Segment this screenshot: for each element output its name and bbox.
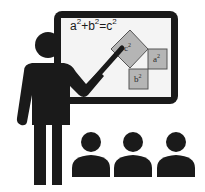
square-c-exp: 2 [128, 42, 131, 48]
pythagorean-formula: a2+b2=c2 [70, 19, 117, 33]
audience-member-2 [114, 132, 152, 177]
audience [72, 132, 195, 177]
square-label-a: a2 [153, 54, 160, 64]
teacher-illustration: a2+b2=c2 c2 a2 b2 [0, 0, 205, 192]
audience-member-3 [157, 132, 195, 177]
square-label-c: c2 [124, 43, 131, 53]
square-label-b: b2 [134, 74, 142, 84]
square-a-exp: 2 [157, 53, 160, 59]
audience-member-1 [72, 132, 110, 177]
formula-a: a [70, 19, 77, 33]
teacher-head [35, 32, 61, 58]
square-b-exp: 2 [139, 73, 142, 79]
formula-c-exp: 2 [112, 17, 116, 26]
formula-b: b [88, 19, 95, 33]
